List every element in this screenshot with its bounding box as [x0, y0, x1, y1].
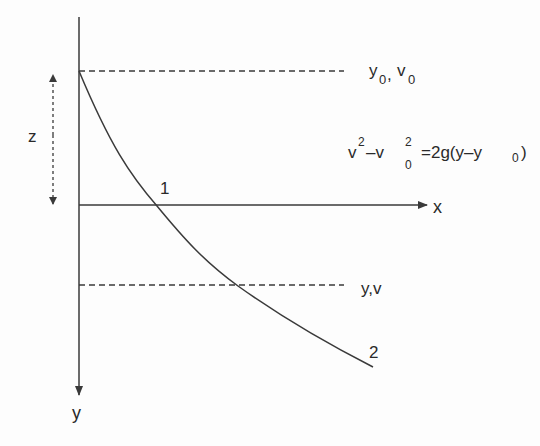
eq-exp2: 2: [405, 135, 412, 149]
trajectory-curve: [79, 71, 373, 367]
eq-sub0: 0: [405, 158, 412, 172]
diagram-canvas: z 1 x y 2 y,v y 0 , v 0 v 2 –v 2 0 =2g(y…: [0, 0, 540, 446]
eq-rhs: =2g(y–y: [421, 143, 482, 162]
eq-minus-v: –v: [366, 143, 384, 162]
point-2-label: 2: [369, 343, 378, 362]
diagram-svg: z 1 x y 2 y,v y 0 , v 0 v 2 –v 2 0 =2g(y…: [0, 0, 540, 446]
eq-exp1: 2: [358, 135, 365, 149]
v0-main: v: [397, 61, 406, 80]
y-axis-label: y: [72, 403, 81, 423]
initial-level-label: y 0 , v 0: [369, 61, 415, 87]
v0-sub: 0: [408, 72, 415, 87]
point-1-label: 1: [160, 179, 169, 198]
eq-rhs-close: ): [521, 143, 527, 162]
x-axis-label: x: [433, 197, 442, 217]
y0-main: y: [369, 61, 378, 80]
y0-sub: 0: [379, 72, 386, 87]
eq-rhs-sub: 0: [512, 151, 519, 165]
final-level-label: y,v: [361, 279, 382, 298]
kinematic-equation: v 2 –v 2 0 =2g(y–y 0 ): [348, 135, 527, 172]
eq-v: v: [348, 143, 357, 162]
y0-v0-separator: ,: [387, 65, 392, 84]
z-label: z: [28, 127, 37, 146]
